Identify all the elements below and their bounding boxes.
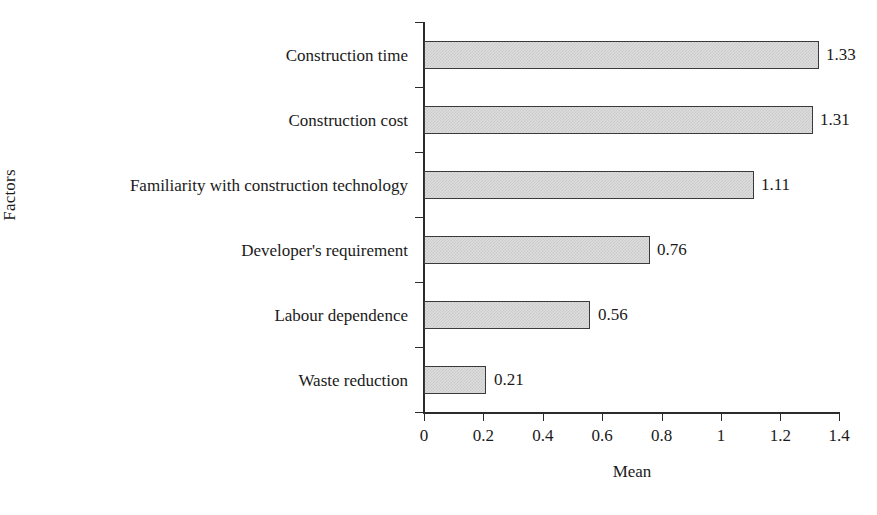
x-axis-tick (483, 412, 484, 421)
category-label-developers-requirement: Developer's requirement (0, 242, 408, 260)
x-axis-tick-label: 1.4 (809, 426, 869, 446)
y-axis-tick (415, 152, 424, 153)
x-axis-tick-label: 0 (394, 426, 454, 446)
bar-value-label: 1.11 (761, 176, 790, 194)
x-axis-tick (602, 412, 603, 421)
x-axis-tick (839, 412, 840, 421)
x-axis-tick (543, 412, 544, 421)
bar-construction-cost (424, 106, 813, 134)
x-axis-tick (780, 412, 781, 421)
x-axis-title: Mean (424, 462, 840, 482)
category-label-construction-time: Construction time (0, 47, 408, 65)
bar-familiarity-with-construction-technology (424, 171, 754, 199)
category-label-waste-reduction: Waste reduction (0, 372, 408, 390)
x-axis-tick-label: 1 (691, 426, 751, 446)
bar-value-label: 0.21 (494, 371, 524, 389)
x-axis-tick (662, 412, 663, 421)
x-axis-tick-label: 0.4 (513, 426, 573, 446)
bar-labour-dependence (424, 301, 590, 329)
bar-construction-time (424, 41, 819, 69)
y-axis-title: Factors (0, 150, 20, 240)
x-axis-tick (721, 412, 722, 421)
bar-chart-figure: Factors 1.33 1.31 1.11 0.76 0.56 (0, 0, 877, 515)
category-label-labour-dependence: Labour dependence (0, 307, 408, 325)
bar-developers-requirement (424, 236, 650, 264)
x-axis-spine (423, 412, 840, 414)
bar-value-label: 0.56 (598, 306, 628, 324)
x-axis-tick (424, 412, 425, 421)
y-axis-tick (415, 217, 424, 218)
x-axis-tick-label: 0.6 (572, 426, 632, 446)
bar-value-label: 1.33 (826, 46, 856, 64)
category-label-familiarity-with-construction-technology: Familiarity with construction technology (0, 177, 408, 195)
y-axis-tick (415, 347, 424, 348)
category-label-construction-cost: Construction cost (0, 112, 408, 130)
y-axis-tick (415, 22, 424, 23)
plot-area: 1.33 1.31 1.11 0.76 0.56 0.21 0 0.2 0.4 … (424, 22, 840, 412)
y-axis-tick (415, 412, 424, 413)
bar-waste-reduction (424, 366, 486, 394)
y-axis-tick (415, 87, 424, 88)
y-axis-tick (415, 282, 424, 283)
bar-value-label: 1.31 (820, 111, 850, 129)
bar-value-label: 0.76 (657, 241, 687, 259)
x-axis-tick-label: 0.8 (632, 426, 692, 446)
x-axis-tick-label: 1.2 (750, 426, 810, 446)
x-axis-tick-label: 0.2 (453, 426, 513, 446)
